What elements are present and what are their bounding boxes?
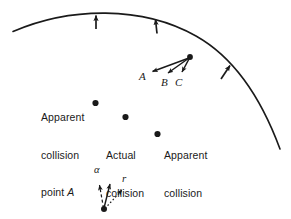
vector-inset-alpha-dashed-arrow <box>100 185 104 208</box>
apparent-a-line-2: collision <box>41 149 84 162</box>
figure-canvas: Apparent collision point A Actual collis… <box>0 0 291 219</box>
actual-line-2: collision <box>106 187 144 200</box>
apparent-collision-point-c-dot <box>154 131 160 137</box>
apparent-c-line-2: collision <box>164 187 207 200</box>
apparent-a-line-3-italic: A <box>67 186 74 198</box>
arc-normal-arrow-3 <box>221 66 230 80</box>
apparent-a-line-1: Apparent <box>41 111 84 124</box>
apparent-collision-point-c-label: Apparent collision point C <box>164 124 207 219</box>
vector-fan <box>153 54 193 73</box>
apparent-collision-point-a-label: Apparent collision point A <box>41 86 84 219</box>
apparent-a-line-3-prefix: point <box>41 186 67 198</box>
vector-inset-label-r: r <box>122 172 126 184</box>
vector-fan-label-c: C <box>175 76 182 88</box>
apparent-a-line-3: point A <box>41 186 84 199</box>
arc-normal-arrow-2 <box>156 20 158 34</box>
actual-line-1: Actual <box>106 149 144 162</box>
apparent-collision-point-a-dot <box>92 100 98 106</box>
vector-fan-label-b: B <box>161 76 168 88</box>
apparent-c-line-1: Apparent <box>164 149 207 162</box>
actual-collision-point-dot <box>122 114 128 120</box>
vector-fan-label-a: A <box>139 70 146 82</box>
vector-inset-label-alpha: α <box>94 164 100 175</box>
